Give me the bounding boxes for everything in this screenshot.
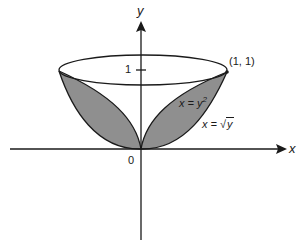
curve-label-y-squared: x = y2 <box>179 95 207 109</box>
point-1-1 <box>225 70 229 74</box>
point-label: (1, 1) <box>229 55 255 67</box>
curve-label-y-squared-text: x = y <box>179 97 203 109</box>
diagram-canvas: y x 0 1 (1, 1) x = y2 x = √y <box>0 0 303 246</box>
y-axis-label: y <box>137 3 144 18</box>
origin-label: 0 <box>128 154 134 166</box>
curve-label-sqrt: x = √y <box>202 118 234 130</box>
y-tick-label: 1 <box>125 63 131 75</box>
diagram-svg <box>0 0 303 246</box>
curve-label-radicand: y <box>226 117 234 130</box>
x-axis-label: x <box>289 141 296 156</box>
curve-label-exponent: 2 <box>203 95 207 104</box>
curve-label-sqrt-text: x = <box>202 118 220 130</box>
